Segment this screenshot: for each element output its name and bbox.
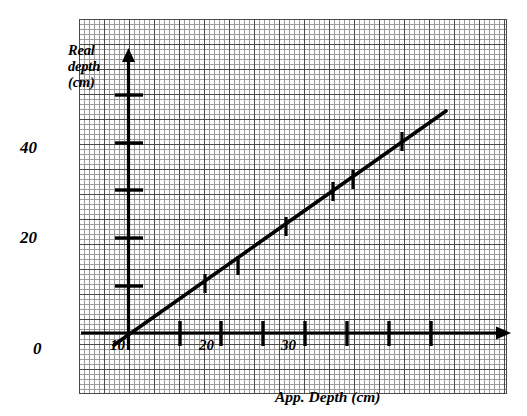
data-line <box>114 111 446 345</box>
y-axis-title: Realdepth(cm) <box>68 42 100 91</box>
y-tick-label-0: 0 <box>33 339 42 358</box>
y-axis-arrow-icon <box>122 48 135 62</box>
x-axis-arrow-icon <box>496 327 511 340</box>
x-tick-label-30: 30 <box>281 337 296 354</box>
x-tick-label-10: 10 <box>110 337 125 354</box>
x-tick-label-20: 20 <box>199 337 214 354</box>
y-axis-title-line-1: Real <box>68 42 95 58</box>
y-tick-label-40: 40 <box>20 138 37 157</box>
axes-group <box>81 48 511 350</box>
y-tick-label-20: 20 <box>20 228 37 247</box>
y-axis-title-line-2: depth <box>68 58 100 74</box>
chart-figure: Realdepth(cm) 40 20 0 10 20 30 App. Dept… <box>0 0 527 416</box>
y-axis-title-line-3: (cm) <box>68 74 95 90</box>
x-axis-title: App. Depth (cm) <box>275 388 380 405</box>
